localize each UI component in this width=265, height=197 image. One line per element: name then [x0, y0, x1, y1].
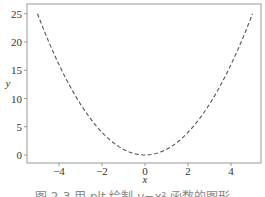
x-tick-label: 2 [185, 165, 191, 177]
x-axis-label: x [142, 173, 148, 185]
y-tick-label: 10 [11, 93, 23, 105]
x-tick-label: 4 [228, 165, 234, 177]
y-tick-label: 15 [11, 64, 23, 76]
figure-caption: 图 2-3 用 plt 绘制 y=x² 函数的图形 [0, 187, 265, 197]
x-tick-label: −4 [53, 165, 65, 177]
y-tick-label: 20 [11, 36, 23, 48]
parabola-line [38, 14, 253, 155]
y-tick-label: 25 [11, 8, 23, 20]
y-tick-label: 0 [17, 149, 23, 161]
y-axis-ticks: 0510152025 [11, 8, 27, 161]
y-axis-label: y [5, 77, 11, 89]
y-tick-label: 5 [17, 121, 23, 133]
x-tick-label: −2 [96, 165, 108, 177]
plot-frame [27, 4, 261, 163]
chart: −4−2024 0510152025 x y [0, 0, 265, 197]
